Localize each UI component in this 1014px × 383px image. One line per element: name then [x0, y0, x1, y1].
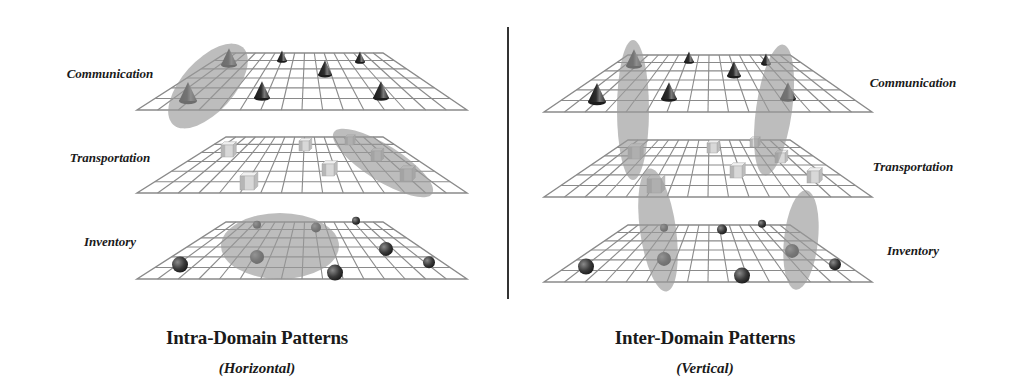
sphere-icon: [758, 220, 766, 228]
sphere-icon: [717, 225, 727, 235]
pattern-highlight: [221, 213, 339, 279]
sphere-icon: [379, 242, 393, 256]
sphere-icon: [423, 256, 435, 268]
cube-icon: [299, 138, 312, 151]
left-label-inventory: Inventory: [84, 234, 136, 250]
sphere-icon: [352, 217, 360, 225]
cube-icon: [221, 142, 236, 157]
intra-domain-title: Intra-Domain Patterns: [166, 327, 348, 349]
plane-inventory: [544, 225, 872, 282]
cube-icon: [707, 140, 720, 153]
cube-icon: [322, 161, 337, 176]
sphere-icon: [578, 259, 594, 275]
sphere-icon: [172, 257, 188, 273]
right-label-communication: Communication: [870, 75, 957, 91]
pattern-highlight: [617, 40, 649, 180]
inter-domain-title: Inter-Domain Patterns: [615, 327, 795, 349]
inter-domain-panel: [544, 40, 872, 294]
left-label-transportation: Transportation: [70, 150, 150, 166]
cube-icon: [730, 163, 745, 178]
intra-domain-panel: [137, 30, 467, 281]
right-label-inventory: Inventory: [887, 243, 939, 259]
panel-divider: [507, 27, 509, 299]
sphere-icon: [829, 258, 841, 270]
inter-domain-subtitle: (Vertical): [676, 360, 734, 377]
intra-domain-subtitle: (Horizontal): [219, 360, 296, 377]
sphere-icon: [327, 265, 343, 281]
cube-icon: [240, 172, 258, 190]
cube-icon: [807, 168, 822, 183]
left-label-communication: Communication: [67, 66, 154, 82]
sphere-icon: [734, 268, 750, 284]
right-label-transportation: Transportation: [873, 159, 953, 175]
